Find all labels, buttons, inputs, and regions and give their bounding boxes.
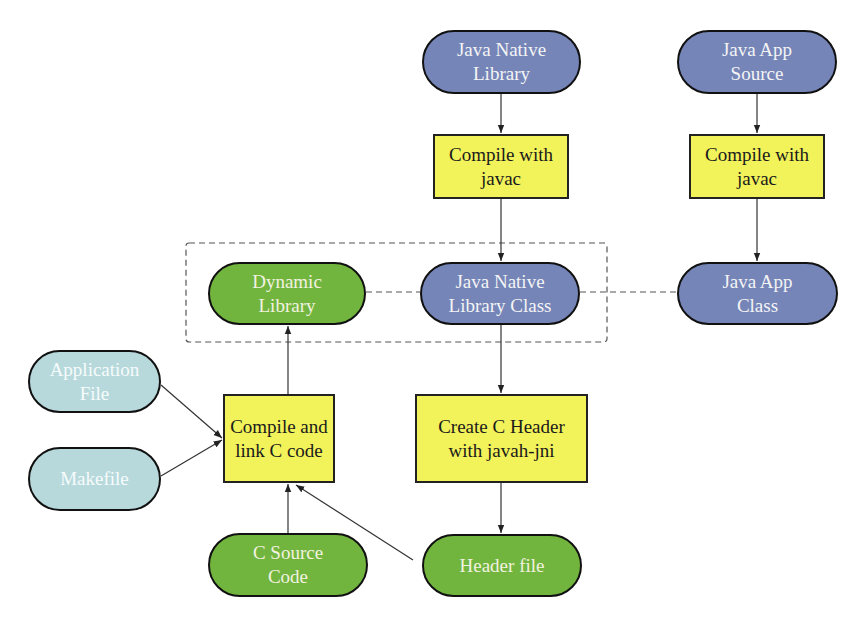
node-application-file: Application File	[28, 350, 161, 413]
node-compile-link-c: Compile and link C code	[223, 394, 335, 483]
arrow-app-file-to-compile-c	[161, 385, 222, 438]
node-dynamic-library: Dynamic Library	[208, 262, 366, 325]
node-header-file: Header file	[422, 534, 582, 597]
node-java-native-library-class: Java Native Library Class	[420, 262, 580, 325]
node-java-native-library: Java Native Library	[422, 30, 581, 94]
node-makefile: Makefile	[28, 447, 161, 511]
node-java-app-class: Java App Class	[677, 262, 838, 325]
node-compile-javac-left: Compile with javac	[433, 134, 569, 199]
node-create-c-header: Create C Header with javah-jni	[415, 394, 588, 483]
node-c-source-code: C Source Code	[208, 533, 368, 597]
node-java-app-source: Java App Source	[677, 30, 837, 94]
node-compile-javac-right: Compile with javac	[689, 134, 825, 199]
arrow-makefile-to-compile-c	[161, 440, 222, 476]
